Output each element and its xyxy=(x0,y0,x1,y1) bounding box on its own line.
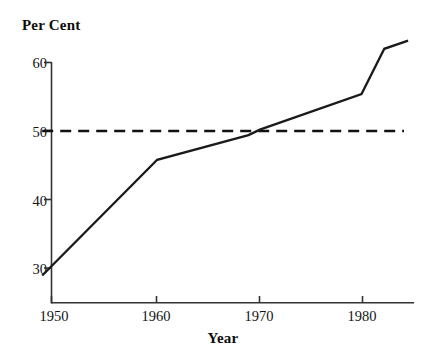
chart-figure: Per Cent Year 60 50 40 30 1950 1960 1970… xyxy=(0,0,438,363)
plot-area xyxy=(0,0,438,363)
data-series-per-cent xyxy=(42,41,408,276)
x-axis-ticks xyxy=(52,296,363,303)
axis-lines xyxy=(51,62,414,304)
y-axis-ticks xyxy=(44,63,52,269)
